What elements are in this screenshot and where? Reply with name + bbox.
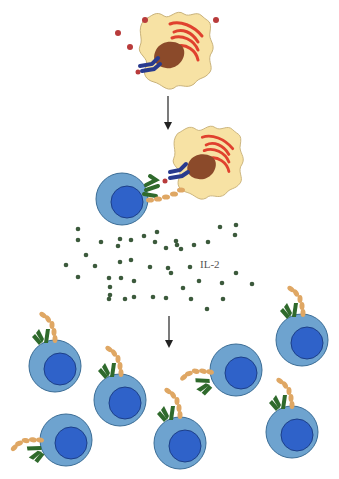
tcell: [9, 414, 92, 466]
antigen-dot: [115, 30, 121, 36]
antigen-dot: [142, 17, 148, 23]
apc-stage1: [115, 12, 219, 89]
tcell: [29, 311, 81, 392]
il2-cloud: [64, 223, 255, 312]
tcr-icon: [144, 176, 158, 196]
arrow-down-icon: [164, 96, 172, 130]
proliferating-tcells: [9, 285, 328, 469]
il2-label: IL-2: [200, 258, 220, 270]
antigen-dot: [213, 17, 219, 23]
diagram-canvas: IL-2: [0, 0, 339, 479]
activation-stage: [96, 126, 243, 225]
tcell: [96, 173, 148, 225]
antigen-dot: [136, 70, 141, 75]
antigen-dot: [127, 44, 133, 50]
tcell: [266, 377, 318, 458]
tcell: [178, 344, 262, 396]
arrow-down-icon: [165, 316, 173, 348]
tcell: [276, 285, 328, 366]
tcell: [154, 387, 206, 469]
tcell: [94, 345, 146, 426]
